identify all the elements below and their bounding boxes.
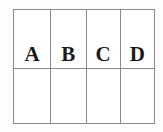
cell-label-c: C xyxy=(87,44,120,68)
table-cell-c-empty[interactable] xyxy=(86,69,120,124)
table-cell-c[interactable]: C xyxy=(86,10,120,69)
table-row xyxy=(14,69,155,124)
table-cell-b-empty[interactable] xyxy=(51,69,86,124)
table-cell-b[interactable]: B xyxy=(51,10,86,69)
cell-label-d-empty xyxy=(121,122,154,123)
table-cell-d[interactable]: D xyxy=(120,10,154,69)
table-cell-d-empty[interactable] xyxy=(120,69,154,124)
cell-label-c-empty xyxy=(87,122,120,123)
table-row: A B C D xyxy=(14,10,155,69)
cell-label-a: A xyxy=(14,44,50,68)
table-cell-a[interactable]: A xyxy=(14,10,51,69)
cell-label-b: B xyxy=(51,44,85,68)
table-cell-a-empty[interactable] xyxy=(14,69,51,124)
cell-label-b-empty xyxy=(51,122,85,123)
letter-grid-table: A B C D xyxy=(13,9,155,124)
cell-label-a-empty xyxy=(14,122,50,123)
cell-label-d: D xyxy=(121,44,154,68)
figure-canvas: A B C D xyxy=(0,0,163,132)
